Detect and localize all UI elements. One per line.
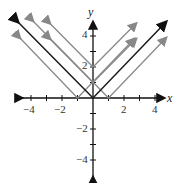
x-axis-label: x [167,91,172,106]
y-tick-label: −4 [76,153,88,165]
x-tick-label: −4 [23,103,35,115]
chart-plot [0,0,194,183]
y-tick-label: −2 [76,122,88,134]
y-tick-label: 4 [82,28,88,40]
x-tick-label: 2 [121,103,127,115]
x-tick-label: −2 [54,103,66,115]
y-tick-label: 2 [82,59,88,71]
y-axis-label: y [88,5,93,20]
x-tick-label: 4 [152,103,158,115]
